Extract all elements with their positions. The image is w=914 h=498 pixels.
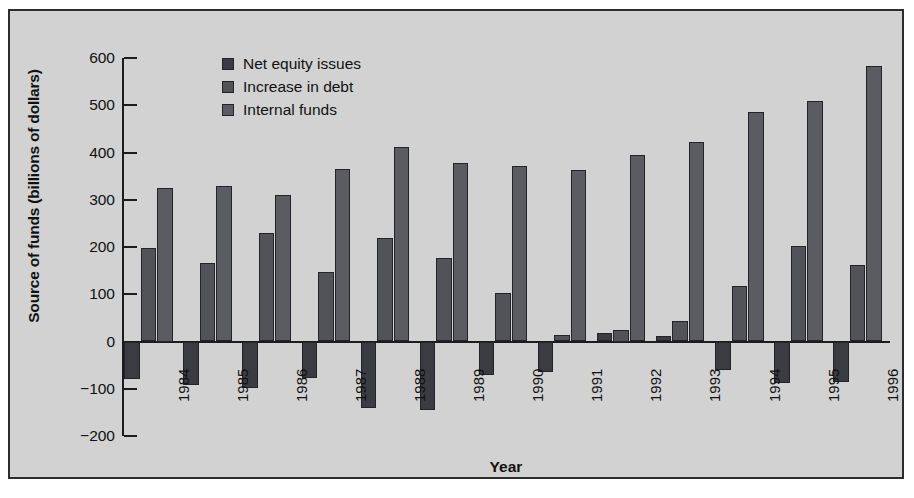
y-tick-label: 0: [106, 332, 115, 350]
legend-swatch-icon: [222, 81, 234, 93]
y-tick-label: 500: [89, 96, 115, 114]
legend-item: Net equity issues: [222, 52, 361, 75]
y-tick-label: 200: [89, 238, 115, 256]
bar-net-equity-issues-1993: [656, 336, 672, 342]
y-tick-label: −100: [80, 379, 115, 397]
legend-item: Increase in debt: [222, 75, 361, 98]
legend-swatch-icon: [222, 58, 234, 70]
bar-increase-in-debt-1986: [259, 233, 275, 342]
bar-internal-funds-1992: [630, 155, 646, 342]
bar-increase-in-debt-1987: [318, 272, 334, 341]
bar-net-equity-issues-1991: [538, 342, 554, 373]
bar-internal-funds-1996: [866, 66, 882, 341]
legend-label: Net equity issues: [243, 55, 361, 73]
x-tick-label: 1988: [411, 368, 428, 401]
plot-area: 6005004003002001000−100−200 198419851986…: [122, 58, 890, 436]
x-tick-label: 1990: [529, 368, 546, 401]
x-tick-label: 1993: [706, 368, 723, 401]
bar-internal-funds-1984: [157, 188, 173, 342]
chart-panel: Source of funds (billions of dollars) 60…: [8, 9, 904, 479]
x-tick-label: 1984: [175, 368, 192, 401]
x-tick-label: 1992: [647, 368, 664, 401]
x-tick-label: 1985: [234, 368, 251, 401]
bar-increase-in-debt-1993: [672, 321, 688, 341]
legend-label: Internal funds: [243, 101, 337, 119]
bar-internal-funds-1988: [394, 147, 410, 342]
bar-internal-funds-1989: [453, 163, 469, 342]
bar-increase-in-debt-1996: [850, 265, 866, 342]
y-tick-label: 300: [89, 190, 115, 208]
bar-increase-in-debt-1990: [495, 293, 511, 342]
legend-label: Increase in debt: [243, 78, 353, 96]
x-tick-label: 1994: [766, 368, 783, 401]
bar-increase-in-debt-1994: [732, 286, 748, 342]
bar-internal-funds-1991: [571, 170, 587, 341]
bar-increase-in-debt-1988: [377, 238, 393, 342]
y-axis-title: Source of funds (billions of dollars): [25, 0, 43, 396]
x-tick-label: 1986: [293, 368, 310, 401]
bar-net-equity-issues-1992: [597, 333, 613, 342]
bar-internal-funds-1986: [275, 195, 291, 341]
bar-internal-funds-1985: [216, 186, 232, 342]
bar-increase-in-debt-1995: [791, 246, 807, 342]
bar-increase-in-debt-1992: [613, 330, 629, 342]
y-tick-label: 400: [89, 143, 115, 161]
legend-swatch-icon: [222, 104, 234, 116]
bar-internal-funds-1995: [807, 101, 823, 341]
bar-group: [124, 58, 173, 436]
bar-net-equity-issues-1984: [124, 342, 140, 380]
bar-increase-in-debt-1985: [200, 263, 216, 342]
bar-internal-funds-1990: [512, 166, 528, 342]
bar-increase-in-debt-1989: [436, 258, 452, 342]
x-axis-title: Year: [122, 458, 890, 476]
x-tick-label: 1987: [352, 368, 369, 401]
legend-item: Internal funds: [222, 98, 361, 121]
x-tick-label: 1989: [470, 368, 487, 401]
bar-increase-in-debt-1991: [554, 335, 570, 341]
x-tick-label: 1995: [825, 368, 842, 401]
figure: Source of funds (billions of dollars) 60…: [0, 0, 914, 498]
bar-internal-funds-1987: [335, 169, 351, 341]
bar-internal-funds-1993: [689, 142, 705, 342]
bar-net-equity-issues-1994: [715, 342, 731, 370]
bar-internal-funds-1994: [748, 112, 764, 341]
bar-increase-in-debt-1984: [141, 248, 157, 342]
chart-legend: Net equity issuesIncrease in debtInterna…: [222, 52, 361, 121]
y-tick-label: 100: [89, 285, 115, 303]
y-tick-label: 600: [89, 49, 115, 67]
x-tick-label: 1991: [588, 368, 605, 401]
x-tick-label: 1996: [884, 368, 901, 401]
y-tick-label: −200: [80, 427, 115, 445]
